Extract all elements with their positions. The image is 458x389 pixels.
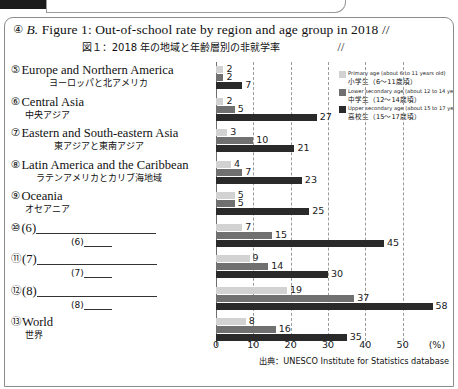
region-label-ja: (6)	[11, 235, 216, 249]
worksheet-page-frame: ④ B. Figure 1: Out-of-school rate by reg…	[4, 17, 454, 387]
region-name-en: Eastern and South-eastern Asia	[21, 126, 178, 140]
heading-title-ja: 図１：2018 年の地域と年齢層別の非就学率	[82, 42, 281, 53]
bar-wrap: 7	[216, 82, 440, 89]
bar-wrap: 10	[216, 137, 440, 144]
tab-shape[interactable]	[46, 0, 346, 13]
bar-wrap: 5	[216, 200, 440, 207]
bar-value-label: 45	[387, 237, 399, 248]
figure-heading: ④ B. Figure 1: Out-of-school rate by reg…	[13, 22, 447, 55]
bar-group: 2527	[216, 98, 440, 122]
bar-wrap: 19	[216, 287, 440, 294]
answer-blank-en[interactable]	[36, 222, 156, 234]
bar-value-label: 5	[238, 197, 244, 208]
bar-value-label: 4	[234, 158, 240, 169]
bar-wrap: 7	[216, 224, 440, 231]
bar-wrap: 7	[216, 169, 440, 176]
bar-value-label: 5	[238, 103, 244, 114]
bar-wrap: 3	[216, 129, 440, 136]
bar-wrap: 58	[216, 303, 440, 310]
chart-row: ⑨Oceaniaオセアニア5525	[5, 188, 453, 220]
region-blank-number: (7)	[22, 252, 37, 266]
bar-wrap: 37	[216, 295, 440, 302]
bar-wrap: 30	[216, 271, 440, 278]
bar-value-label: 15	[275, 229, 287, 240]
bar-group: 227	[216, 66, 440, 90]
bar-series-1	[216, 200, 235, 207]
bar-value-label: 58	[436, 300, 448, 311]
region-name-en: Central Asia	[21, 95, 84, 109]
chart-row: ⑤Europe and Northern Americaヨーロッパと北アメリカ2…	[5, 62, 453, 94]
x-tick-0: 0	[213, 339, 219, 350]
region-blank-number-ja: (8)	[71, 300, 84, 310]
bar-value-label: 7	[245, 166, 251, 177]
source-note: 出典：UNESCO Institute for Statistics datab…	[259, 354, 449, 366]
bar-value-label: 9	[253, 252, 259, 263]
region-item-number: ⑧	[11, 157, 20, 171]
bar-group: 193758	[216, 287, 440, 311]
bar-wrap: 9	[216, 255, 440, 262]
region-label: ⑥Central Asia中央アジア	[11, 94, 216, 121]
bar-group: 71545	[216, 224, 440, 248]
bar-wrap: 15	[216, 232, 440, 239]
bar-value-label: 2	[226, 71, 232, 82]
answer-blank-ja[interactable]	[84, 298, 112, 310]
heading-line-en: ④ B. Figure 1: Out-of-school rate by reg…	[13, 22, 447, 38]
region-blank-number-ja: (7)	[71, 268, 84, 278]
bar-wrap: 27	[216, 114, 440, 121]
region-label: ⑤Europe and Northern Americaヨーロッパと北アメリカ	[11, 62, 216, 89]
region-label: ⑫(8)(8)	[11, 283, 216, 312]
region-name-en: Oceania	[21, 189, 62, 203]
region-item-number: ⑩	[11, 220, 20, 234]
bar-series-1	[216, 169, 242, 176]
bar-wrap: 2	[216, 98, 440, 105]
bar-value-label: 23	[305, 174, 317, 185]
chart-row: ⑧Latin America and the Caribbeanラテンアメリカと…	[5, 157, 453, 189]
bar-value-label: 8	[249, 315, 255, 326]
heading-prefix: B.	[26, 22, 38, 37]
region-label-en: ⑧Latin America and the Caribbean	[11, 157, 216, 172]
region-label-en: ⑩(6)	[11, 220, 216, 235]
region-name-en: Latin America and the Caribbean	[21, 158, 188, 172]
region-name-en: Europe and Northern America	[21, 63, 173, 77]
answer-blank-ja[interactable]	[84, 235, 112, 247]
bar-series-0	[216, 255, 250, 262]
bar-value-label: 2	[226, 95, 232, 106]
heading-slash-2: //	[338, 40, 345, 54]
bar-series-0	[216, 98, 223, 105]
answer-blank-ja[interactable]	[84, 266, 112, 278]
x-axis-unit: (%)	[429, 339, 445, 350]
region-label: ⑨Oceaniaオセアニア	[11, 188, 216, 215]
bar-series-2	[216, 114, 317, 121]
region-label-en: ⑫(8)	[11, 283, 216, 298]
region-label-ja: 東アジアと東南アジア	[11, 140, 216, 152]
bar-wrap: 8	[216, 318, 440, 325]
region-label-ja: 世界	[11, 329, 216, 341]
bar-value-label: 7	[245, 79, 251, 90]
x-tick-50: 50	[397, 339, 409, 350]
x-tick-10: 10	[247, 339, 259, 350]
bar-value-label: 27	[320, 111, 332, 122]
region-item-number: ⑤	[11, 62, 20, 76]
chart-row: ⑫(8)(8)193758	[5, 283, 453, 315]
bar-series-0	[216, 287, 287, 294]
region-label: ⑦Eastern and South-eastern Asia東アジアと東南アジ…	[11, 125, 216, 152]
bar-wrap: 23	[216, 177, 440, 184]
heading-slash-1: //	[382, 22, 390, 37]
region-label-ja: ラテンアメリカとカリブ海地域	[11, 172, 216, 184]
bar-series-0	[216, 161, 231, 168]
bar-wrap: 45	[216, 240, 440, 247]
answer-blank-en[interactable]	[37, 285, 157, 297]
region-item-number: ⑥	[11, 94, 20, 108]
region-label-en: ⑨Oceania	[11, 188, 216, 203]
heading-title-en: Figure 1: Out-of-school rate by region a…	[42, 22, 379, 37]
region-item-number: ⑫	[11, 283, 21, 297]
x-axis: 01020304050(%)	[216, 339, 440, 353]
region-label: ⑬World世界	[11, 314, 216, 341]
chart-row: ⑦Eastern and South-eastern Asia東アジアと東南アジ…	[5, 125, 453, 157]
chart-row: ⑩(6)(6)71545	[5, 220, 453, 252]
heading-item-number: ④	[13, 23, 23, 36]
bar-value-label: 19	[290, 284, 302, 295]
bar-group: 31021	[216, 129, 440, 153]
answer-blank-en[interactable]	[37, 253, 157, 265]
region-blank-number: (6)	[21, 221, 36, 235]
